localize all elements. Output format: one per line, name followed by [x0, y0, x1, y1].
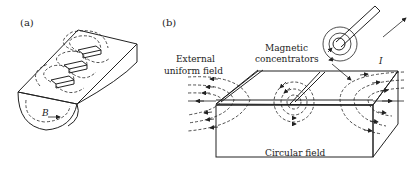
panel-b-label: (b) [162, 17, 176, 28]
panel-a: (a) B [18, 17, 137, 130]
external-field-lines-right [340, 72, 404, 134]
panel-b: (b) External uniform field Magnetic conc… [162, 6, 406, 158]
sensor-chips [51, 46, 101, 88]
external-field-label-line1: External [176, 54, 215, 64]
chip-field-lines [36, 31, 111, 93]
concentrators-label-line2: concentrators [255, 54, 319, 64]
figure-canvas: (a) B [0, 0, 417, 171]
current-direction-arrow-icon [383, 18, 406, 37]
concentrator-pointer-arrow-icon [332, 64, 351, 80]
panel-a-label: (a) [20, 17, 34, 28]
wire-inset [323, 6, 406, 61]
concentrators-label-line1: Magnetic [265, 43, 308, 53]
conductor-block-b [216, 70, 398, 157]
external-field-label-line2: uniform field [164, 66, 223, 76]
current-label: I [378, 56, 383, 66]
b-field-symbol: B [41, 108, 49, 118]
